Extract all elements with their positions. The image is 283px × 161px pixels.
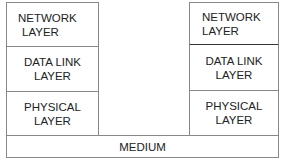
left-physical-layer-label: PHYSICAL LAYER: [24, 100, 81, 128]
left-network-layer-label: NETWORK LAYER: [18, 11, 77, 39]
right-physical-line2: LAYER: [206, 113, 263, 127]
right-data-link-layer-label: DATA LINK LAYER: [205, 54, 262, 82]
right-datalink-line2: LAYER: [205, 68, 262, 82]
medium-label: MEDIUM: [119, 140, 166, 154]
medium-bar: MEDIUM: [6, 135, 279, 158]
right-physical-line1: PHYSICAL: [206, 99, 263, 113]
left-datalink-line2: LAYER: [24, 69, 81, 83]
right-network-line2: LAYER: [202, 24, 261, 38]
right-network-layer: NETWORK LAYER: [189, 2, 279, 46]
left-network-line2: LAYER: [18, 25, 77, 39]
left-network-layer: NETWORK LAYER: [6, 2, 99, 47]
left-data-link-layer-label: DATA LINK LAYER: [24, 55, 81, 83]
left-physical-line1: PHYSICAL: [24, 100, 81, 114]
right-network-layer-label: NETWORK LAYER: [202, 10, 261, 38]
left-physical-line2: LAYER: [24, 114, 81, 128]
left-data-link-layer: DATA LINK LAYER: [6, 46, 99, 92]
right-data-link-layer: DATA LINK LAYER: [189, 45, 279, 91]
right-physical-layer: PHYSICAL LAYER: [189, 90, 279, 136]
right-datalink-line1: DATA LINK: [205, 54, 262, 68]
right-physical-layer-label: PHYSICAL LAYER: [206, 99, 263, 127]
left-physical-layer: PHYSICAL LAYER: [6, 91, 99, 136]
left-datalink-line1: DATA LINK: [24, 55, 81, 69]
right-network-line1: NETWORK: [202, 10, 261, 24]
left-network-line1: NETWORK: [18, 11, 77, 25]
